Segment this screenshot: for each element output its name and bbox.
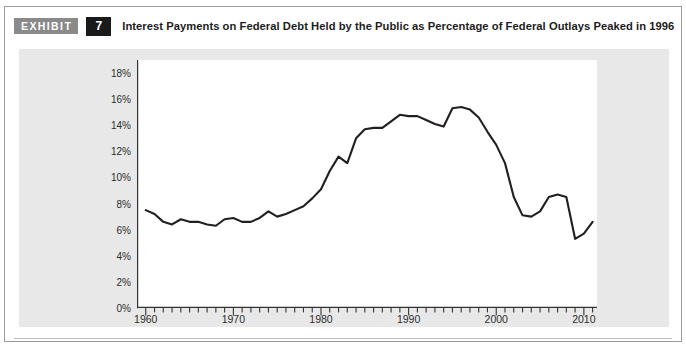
y-tick-label: 12% xyxy=(111,146,131,157)
exhibit-number-badge: 7 xyxy=(86,17,111,36)
x-tick-label: 1960 xyxy=(134,313,157,325)
exhibit-figure: EXHIBIT 7 Interest Payments on Federal D… xyxy=(0,0,686,349)
x-tick-label: 1970 xyxy=(222,313,245,325)
interest-payments-line xyxy=(146,107,593,239)
y-tick-label: 16% xyxy=(111,94,131,105)
plot-area xyxy=(137,60,597,308)
exhibit-tag-label: EXHIBIT xyxy=(14,18,78,35)
exhibit-title: Interest Payments on Federal Debt Held b… xyxy=(122,20,674,32)
y-tick-label: 0% xyxy=(117,303,131,314)
x-tick-label: 2010 xyxy=(572,313,595,325)
x-tick-label: 1980 xyxy=(309,313,332,325)
exhibit-header: EXHIBIT 7 Interest Payments on Federal D… xyxy=(14,16,674,36)
y-tick-label: 6% xyxy=(117,224,131,235)
y-tick-label: 2% xyxy=(117,276,131,287)
y-tick-label: 8% xyxy=(117,198,131,209)
x-tick-label: 1990 xyxy=(397,313,420,325)
y-tick-label: 10% xyxy=(111,172,131,183)
y-tick-label: 4% xyxy=(117,250,131,261)
footer-divider xyxy=(14,338,672,339)
y-tick-label: 18% xyxy=(111,68,131,79)
line-chart-svg xyxy=(137,60,597,308)
y-axis-tick-labels: 0%2%4%6%8%10%12%14%16%18% xyxy=(79,60,131,308)
x-tick-label: 2000 xyxy=(485,313,508,325)
chart-line-group xyxy=(146,107,593,239)
header-divider xyxy=(14,40,672,41)
y-tick-label: 14% xyxy=(111,120,131,131)
chart-panel: 0%2%4%6%8%10%12%14%16%18% 19601970198019… xyxy=(19,49,669,327)
x-axis-tick-labels: 196019701980199020002010 xyxy=(137,313,597,329)
